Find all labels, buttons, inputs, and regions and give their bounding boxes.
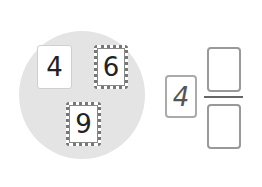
- fraction-bar: [204, 96, 243, 98]
- numerator-box[interactable]: [207, 47, 241, 92]
- denominator-box[interactable]: [207, 104, 241, 149]
- mixed-number-whole-box[interactable]: 4: [165, 75, 197, 118]
- number-card-6[interactable]: 6: [94, 45, 128, 89]
- number-card-9[interactable]: 9: [66, 102, 101, 146]
- number-card-4[interactable]: 4: [37, 45, 72, 89]
